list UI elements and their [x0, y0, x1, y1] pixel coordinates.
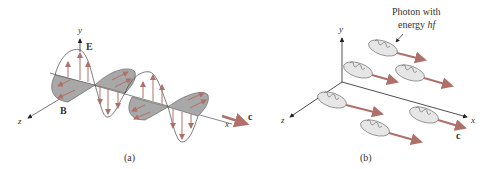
x-axis [342, 82, 467, 117]
photon [316, 89, 382, 114]
photon-label-line2: energy hf [398, 19, 437, 30]
e-field-vectors [68, 53, 191, 139]
b-field-label: B [60, 105, 67, 116]
figure-canvas: y E B z x c (a) [0, 0, 491, 169]
x-axis-label: x [224, 119, 229, 129]
y-axis-label: y [77, 25, 82, 35]
photon [394, 62, 452, 86]
speed-label-c: c [456, 130, 461, 141]
photon-pointer [396, 34, 403, 42]
caption-b: (b) [360, 152, 372, 164]
photon [359, 117, 421, 142]
b-field-lobe [95, 69, 135, 93]
b-field-lobe [168, 92, 208, 116]
e-field-label: E [86, 41, 93, 52]
caption-a: (a) [124, 152, 135, 164]
x-axis-label: x [470, 115, 475, 125]
photon-figure: Photon with energy hf y z x c (b) [280, 6, 475, 164]
y-axis-label: y [338, 24, 343, 34]
z-axis-label: z [17, 116, 22, 126]
photon-label-line1: Photon with [392, 6, 441, 17]
speed-label-c: c [248, 111, 253, 122]
z-axis-label: z [280, 115, 285, 125]
em-wave-figure: y E B z x c (a) [17, 25, 253, 164]
photon [342, 59, 397, 82]
photon [367, 37, 425, 60]
photon [408, 104, 465, 128]
